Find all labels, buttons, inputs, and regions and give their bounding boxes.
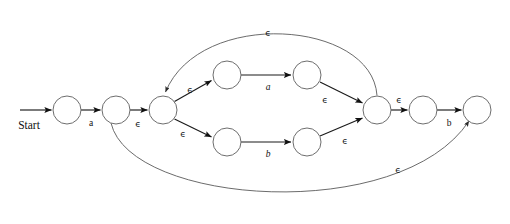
state-9-accept[interactable] [463, 96, 491, 124]
state-8[interactable] [409, 96, 437, 124]
transition-label-a-upper: a [266, 82, 271, 92]
transition-label-eps-loop-top: ϵ [265, 28, 271, 38]
transition-label-eps-split-top: ϵ [187, 85, 193, 95]
state-5[interactable] [213, 128, 241, 156]
transition-label-a-first: a [89, 118, 94, 128]
state-7-merge[interactable] [363, 96, 391, 124]
start-label: Start [18, 119, 41, 131]
state-3[interactable] [213, 61, 241, 89]
transition-label-b-lower: b [266, 149, 271, 159]
nfa-diagram-canvas: Start a ϵ ϵ a ϵ b [0, 0, 510, 224]
state-6[interactable] [293, 128, 321, 156]
transition-label-eps-q7-q8: ϵ [396, 95, 402, 105]
transition-label-eps-bypass-bottom: ϵ [395, 165, 401, 175]
state-2-split[interactable] [149, 96, 177, 124]
transition-label-eps-split-bottom: ϵ [180, 129, 186, 139]
nfa-diagram-svg: Start a ϵ ϵ a ϵ b [0, 0, 510, 224]
transition-q6-q7 [320, 118, 363, 136]
state-4[interactable] [293, 61, 321, 89]
transition-label-eps-q1-q2: ϵ [135, 119, 141, 129]
transition-q7-q2-loop [166, 34, 378, 96]
transition-label-eps-merge-top: ϵ [322, 95, 328, 105]
transition-label-b-final: b [447, 118, 452, 128]
transition-q1-q9-bypass [111, 121, 469, 192]
transition-q2-q3 [175, 81, 212, 102]
state-0[interactable] [53, 96, 81, 124]
state-1[interactable] [102, 96, 130, 124]
transition-label-eps-merge-bottom: ϵ [342, 136, 348, 146]
